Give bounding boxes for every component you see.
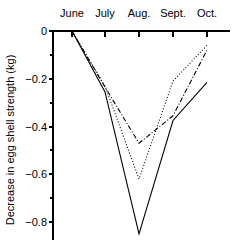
chart-figure: Decrease in egg shell strength (kg) 0 −0…: [0, 0, 235, 247]
series-group: [72, 31, 207, 234]
line-chart: Decrease in egg shell strength (kg) 0 −0…: [0, 0, 235, 247]
series-line-solid: [72, 31, 207, 234]
y-tick-label-2: −0.4: [25, 121, 47, 133]
x-tick-label-june: June: [60, 7, 84, 19]
y-tick-label-0: 0: [41, 25, 47, 37]
y-tick-label-1: −0.2: [25, 73, 47, 85]
x-tick-label-oct: Oct.: [197, 7, 217, 19]
x-tick-label-sept: Sept.: [160, 7, 186, 19]
series-line-dashdot: [72, 31, 207, 143]
y-tick-label-4: −0.8: [25, 216, 47, 228]
y-axis-title: Decrease in egg shell strength (kg): [4, 55, 16, 226]
x-tick-label-july: July: [95, 7, 115, 19]
y-tick-label-3: −0.6: [25, 168, 47, 180]
x-tick-label-aug: Aug.: [128, 7, 151, 19]
